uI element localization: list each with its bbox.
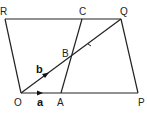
geometry-diagram: R C Q B O A P a b xyxy=(0,0,147,117)
label-C: C xyxy=(79,6,86,17)
label-A: A xyxy=(57,97,64,108)
segment-PQ xyxy=(121,19,138,93)
vector-label-a: a xyxy=(37,96,44,108)
label-R: R xyxy=(0,6,7,17)
segment-OR xyxy=(5,19,21,93)
label-O: O xyxy=(14,97,22,108)
label-Q: Q xyxy=(120,6,128,17)
segment-OQ xyxy=(21,19,121,93)
tick-mark-icon xyxy=(88,44,91,46)
vector-label-b: b xyxy=(36,63,43,75)
arrow-a-icon xyxy=(37,91,43,96)
label-P: P xyxy=(138,97,145,108)
label-B: B xyxy=(62,48,69,59)
